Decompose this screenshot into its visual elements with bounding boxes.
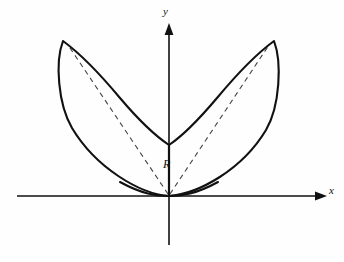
right-petal-outline <box>169 41 279 196</box>
left-petal-outline <box>59 41 169 196</box>
x-axis-arrow-icon <box>315 192 327 201</box>
y-axis-arrow-icon <box>165 23 174 35</box>
y-axis-label: y <box>163 6 168 17</box>
dashed-ray-right <box>170 45 269 194</box>
dashed-ray-left <box>68 45 168 194</box>
figure-svg <box>0 0 344 262</box>
region-label-r: R <box>163 158 170 170</box>
x-axis-label: x <box>329 185 334 196</box>
figure-canvas: y x R <box>0 0 344 262</box>
axes-group <box>17 23 327 245</box>
